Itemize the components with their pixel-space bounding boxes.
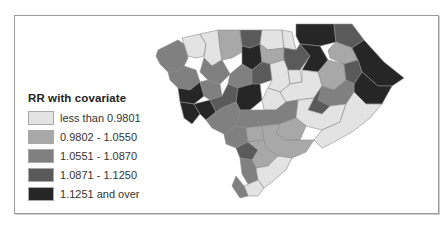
legend-label: 1.0551 - 1.0870	[60, 150, 137, 162]
county-lexington[interactable]	[236, 84, 262, 110]
county-newberry[interactable]	[228, 64, 252, 88]
legend-title: RR with covariate	[28, 92, 141, 104]
legend-swatch	[28, 130, 54, 144]
county-bamberg[interactable]	[246, 126, 264, 142]
county-lee[interactable]	[288, 70, 302, 84]
legend-item-class-2: 0.9802 - 1.0550	[28, 127, 141, 146]
county-lancaster[interactable]	[282, 30, 296, 50]
map-legend: RR with covariate less than 0.9801 0.980…	[28, 92, 141, 203]
legend-item-class-1: less than 0.9801	[28, 108, 141, 127]
legend-label: 1.0871 - 1.1250	[60, 169, 137, 181]
legend-label: less than 0.9801	[60, 112, 141, 124]
county-spartanburg[interactable]	[218, 30, 242, 60]
legend-item-class-3: 1.0551 - 1.0870	[28, 146, 141, 165]
legend-item-class-4: 1.0871 - 1.1250	[28, 165, 141, 184]
legend-swatch	[28, 149, 54, 163]
legend-swatch	[28, 187, 54, 201]
legend-item-class-5: 1.1251 and over	[28, 184, 141, 203]
legend-label: 1.1251 and over	[60, 188, 140, 200]
legend-label: 0.9802 - 1.0550	[60, 131, 137, 143]
legend-swatch	[28, 111, 54, 125]
county-chesterfield[interactable]	[296, 24, 336, 46]
legend-swatch	[28, 168, 54, 182]
